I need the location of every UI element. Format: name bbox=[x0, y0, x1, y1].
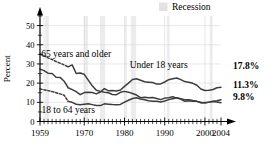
x-axis-arrow bbox=[227, 119, 236, 125]
y-tick-label: 50 bbox=[26, 21, 35, 31]
y-tick-label: 0 bbox=[30, 117, 34, 127]
label-65-and-older: 65 years and older bbox=[41, 49, 112, 59]
x-tick-label: 1970 bbox=[75, 128, 94, 138]
end-label-18-to-64: 11.3% bbox=[233, 80, 259, 90]
recession-band bbox=[210, 16, 213, 122]
x-tick-label: 2004 bbox=[212, 128, 231, 138]
label-18-to-64: 18 to 64 years bbox=[41, 105, 95, 115]
label-under-18: Under 18 years bbox=[130, 60, 188, 70]
series-line-65-years-and-older bbox=[68, 65, 221, 103]
recession-band bbox=[125, 16, 127, 122]
y-tick-label: 30 bbox=[26, 59, 35, 69]
y-axis-title: Percent bbox=[2, 55, 12, 82]
end-label-under-18: 17.8% bbox=[233, 61, 259, 71]
y-tick-label: 10 bbox=[26, 97, 35, 107]
x-tick-label: 1980 bbox=[115, 128, 134, 138]
series-line-under-18-years bbox=[40, 69, 221, 95]
x-tick-label: 1990 bbox=[156, 128, 175, 138]
x-tick-label: 1959 bbox=[31, 128, 50, 138]
legend-label-recession: Recession bbox=[172, 2, 211, 12]
y-axis-arrow bbox=[37, 7, 43, 16]
end-value-labels: 17.8%11.3%9.8% bbox=[233, 61, 259, 103]
y-tick-label: 20 bbox=[26, 78, 35, 88]
y-tick-labels: 01020304050 bbox=[26, 21, 35, 127]
chart-canvas: 01020304050 195919701980199020002004 65 … bbox=[0, 0, 278, 146]
poverty-rate-chart: 01020304050 195919701980199020002004 65 … bbox=[0, 0, 278, 146]
legend-swatch-recession bbox=[159, 3, 168, 12]
legend: Recession bbox=[159, 2, 211, 12]
y-axis-title-text: Percent bbox=[2, 55, 12, 82]
end-label-65-and-older: 9.8% bbox=[233, 92, 254, 102]
y-tick-label: 40 bbox=[26, 40, 35, 50]
x-tick-labels: 195919701980199020002004 bbox=[31, 128, 231, 138]
